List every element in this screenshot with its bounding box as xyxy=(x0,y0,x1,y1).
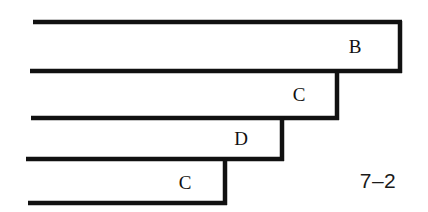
step-label-c-lower: C xyxy=(179,173,192,192)
step-label-c-upper: C xyxy=(293,85,306,104)
step-label-b: B xyxy=(349,37,362,56)
figure-canvas: B C D C 7–2 xyxy=(0,0,428,212)
figure-number-caption: 7–2 xyxy=(360,170,397,191)
step-region-b xyxy=(30,21,402,73)
step-region-c-lower xyxy=(28,158,227,205)
step-label-d: D xyxy=(234,129,248,148)
